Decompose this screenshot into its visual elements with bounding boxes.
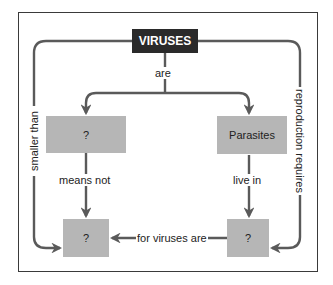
link-label-live-in: live in [232,174,262,186]
link-label-means-not: means not [58,174,111,186]
connector-are-left [86,93,165,113]
link-label-are: are [154,67,172,79]
node-bottom-right-unknown: ? [227,219,269,257]
node-parasites: Parasites [217,116,287,154]
node-top-left-unknown: ? [46,116,126,153]
node-viruses: VIRUSES [132,29,198,53]
connector-are-right [165,93,249,113]
link-label-for-viruses-are: for viruses are [136,232,208,244]
node-bottom-left-unknown: ? [63,219,109,257]
link-label-reproduction-requires: reproduction requires [293,87,307,195]
link-label-smaller-than: smaller than [27,106,41,176]
